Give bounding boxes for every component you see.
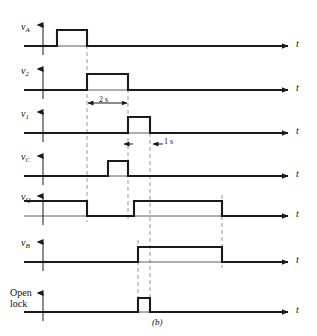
t-axis-label-v2: t xyxy=(296,83,299,94)
waveform-canvas xyxy=(0,0,317,336)
signal-label-open-lock: Openlock xyxy=(10,288,32,309)
signal-label-vQ: vQ xyxy=(21,192,31,204)
waveform-vC xyxy=(24,161,288,176)
figure-caption: (b) xyxy=(152,318,163,327)
waveform-v1 xyxy=(24,117,288,133)
dimension-label-1s: 1 s xyxy=(164,138,173,146)
signal-label-v2: v2 xyxy=(21,66,29,78)
signal-label-vB: vB xyxy=(21,238,30,250)
signal-label-v1: v1 xyxy=(21,109,29,121)
waveform-open-lock xyxy=(24,298,288,312)
waveform-v2 xyxy=(24,74,288,90)
t-axis-label-v1: t xyxy=(296,126,299,137)
signal-label-vC: vC xyxy=(21,152,30,164)
dimension-label-2s: 2 s xyxy=(99,96,108,104)
waveform-vA xyxy=(24,30,288,46)
t-axis-label-vB: t xyxy=(296,255,299,266)
timing-diagram-figure: vA v2 v1 vC vQ vB Openlock t t t t t t t… xyxy=(0,0,317,336)
signal-label-vA: vA xyxy=(21,22,30,34)
t-axis-label-vA: t xyxy=(296,39,299,50)
t-axis-label-vQ: t xyxy=(296,209,299,220)
waveform-vB xyxy=(24,247,288,262)
t-axis-label-open-lock: t xyxy=(296,305,299,316)
waveform-vQ xyxy=(24,201,288,216)
t-axis-label-vC: t xyxy=(296,169,299,180)
